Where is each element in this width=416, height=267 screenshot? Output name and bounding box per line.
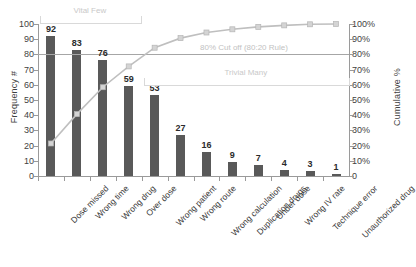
bar-value-label: 4	[272, 159, 296, 168]
tick-mark-bottom	[168, 177, 169, 181]
y-tick-right-70: 70%	[352, 66, 370, 75]
tick-mark-bottom	[271, 177, 272, 181]
y-tick-left-50: 50	[24, 96, 34, 105]
y-tick-right-80: 80%	[352, 50, 370, 59]
y-tick-left-90: 90	[24, 35, 34, 44]
y-tick-left-40: 40	[24, 111, 34, 120]
tick-mark-right	[350, 24, 354, 25]
bar-value-label: 27	[169, 124, 193, 133]
bar-value-label: 92	[39, 25, 63, 34]
cumulative-marker	[282, 23, 287, 28]
cumulative-marker	[230, 27, 235, 32]
tick-mark-right	[350, 39, 354, 40]
y-tick-right-40: 40%	[352, 111, 370, 120]
bar-value-label: 3	[298, 160, 322, 169]
vital-few-label: Vital Few	[40, 6, 140, 15]
tick-mark-bottom	[38, 177, 39, 181]
cumulative-marker	[48, 141, 53, 146]
tick-mark-right	[350, 54, 354, 55]
tick-mark-right	[350, 176, 354, 177]
bar-value-label: 76	[91, 49, 115, 58]
bar-value-label: 83	[65, 39, 89, 48]
tick-mark-bottom	[116, 177, 117, 181]
tick-mark-bottom	[323, 177, 324, 181]
tick-mark-bottom	[219, 177, 220, 181]
cumulative-marker	[126, 64, 131, 69]
y-axis-right-title: Cumulative %	[392, 59, 402, 135]
cumulative-marker	[152, 45, 157, 50]
cumulative-marker	[100, 85, 105, 90]
y-tick-right-10: 10%	[352, 157, 370, 166]
tick-mark-bottom	[90, 177, 91, 181]
tick-mark-right	[350, 161, 354, 162]
y-tick-left-80: 80	[24, 50, 34, 59]
tick-mark-right	[350, 70, 354, 71]
trivial-many-bracket	[144, 78, 350, 86]
bar-value-label: 16	[194, 141, 218, 150]
tick-mark-bottom	[194, 177, 195, 181]
y-tick-right-100: 100%	[352, 20, 375, 29]
tick-mark-bottom	[297, 177, 298, 181]
tick-mark-right	[350, 130, 354, 131]
y-tick-left-70: 70	[24, 66, 34, 75]
bar-value-label: 59	[117, 75, 141, 84]
tick-mark-bottom	[245, 177, 246, 181]
bar-value-label: 1	[324, 163, 348, 172]
tick-mark-right	[350, 146, 354, 147]
y-tick-right-60: 60%	[352, 81, 370, 90]
tick-mark-right	[350, 115, 354, 116]
y-tick-left-30: 30	[24, 126, 34, 135]
y-tick-left-10: 10	[24, 157, 34, 166]
cumulative-marker	[256, 24, 261, 29]
tick-mark-right	[350, 85, 354, 86]
y-tick-left-20: 20	[24, 142, 34, 151]
tick-mark-bottom	[142, 177, 143, 181]
y-tick-right-20: 20%	[352, 142, 370, 151]
bar-value-label: 7	[246, 154, 270, 163]
y-tick-right-90: 90%	[352, 35, 370, 44]
cumulative-marker	[178, 36, 183, 41]
cumulative-marker	[308, 22, 313, 27]
y-axis-left-ticks: 1009080706050403020100	[8, 24, 34, 176]
bar-value-label: 9	[220, 151, 244, 160]
tick-mark-right	[350, 100, 354, 101]
y-axis-right-ticks: 100%90%80%70%60%50%40%30%20%10%0	[352, 24, 386, 176]
y-tick-right-50: 50%	[352, 96, 370, 105]
y-tick-left-60: 60	[24, 81, 34, 90]
y-tick-left-100: 100	[19, 20, 34, 29]
trivial-many-label: Trivial Many	[144, 68, 348, 77]
y-tick-right-30: 30%	[352, 126, 370, 135]
tick-mark-bottom	[64, 177, 65, 181]
cumulative-marker	[334, 22, 339, 27]
vital-few-bracket	[40, 16, 142, 24]
cutoff-annotation-label: 80% Cut off (80:20 Rule)	[200, 43, 288, 52]
cumulative-marker	[74, 112, 79, 117]
cumulative-marker	[204, 30, 209, 35]
